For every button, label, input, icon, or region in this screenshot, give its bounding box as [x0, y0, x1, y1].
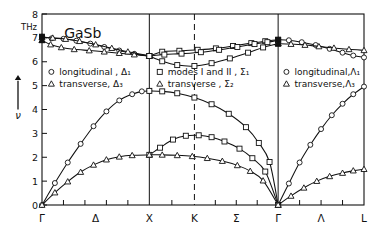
x-tick-label-branch: Λ	[317, 212, 325, 224]
x-tick-label-point: K	[191, 212, 199, 224]
data-point-circle-open	[117, 98, 122, 103]
legend-label: transverse,Λ₃	[294, 79, 355, 89]
data-point-square-open	[160, 89, 165, 94]
data-point-square-open	[246, 50, 251, 55]
x-tick-label-branch: Σ	[233, 212, 240, 224]
data-point-circle-open	[91, 124, 96, 129]
legend-label: longitudinal,Λ₁	[294, 67, 360, 77]
legend-label: modes I and II , Σ₁	[168, 67, 250, 77]
data-point-square-open	[158, 145, 163, 150]
series-line	[278, 169, 364, 205]
x-tick-label-point: Γ	[39, 212, 45, 224]
series-acoustic	[147, 88, 281, 207]
x-tick-label-point: X	[146, 212, 153, 224]
data-point-square-open	[196, 133, 201, 138]
data-point-square-open	[222, 139, 227, 144]
data-point-square-open	[162, 52, 167, 57]
series-acoustic	[146, 152, 281, 207]
data-point-circle-open	[130, 92, 135, 97]
data-point-square-open	[209, 61, 214, 66]
data-point-circle-open	[286, 181, 291, 186]
legend-marker-circle-open	[49, 69, 54, 74]
phonon-dispersion-figure: 012345678THzνΓΔXKΣΓΛLGaSblongitudinal , …	[0, 0, 372, 241]
x-tick-label-point: Γ	[275, 212, 281, 224]
data-point-circle-open	[308, 142, 313, 147]
legend-marker-triangle-open	[48, 81, 54, 86]
data-point-circle-open	[65, 160, 70, 165]
data-point-square-open	[183, 133, 188, 138]
legend-marker-triangle-open	[157, 81, 163, 86]
y-tick-label: 1	[32, 176, 38, 187]
y-unit-label: THz	[20, 22, 38, 32]
data-point-square-open	[209, 135, 214, 140]
y-tick-label: 3	[32, 128, 38, 139]
chart-title: GaSb	[64, 25, 101, 41]
series-line	[42, 91, 149, 205]
data-point-circle-open	[297, 160, 302, 165]
y-tick-label: 8	[32, 9, 38, 20]
data-point-square-open	[227, 56, 232, 61]
legend-label: transverse , Σ₂	[168, 79, 234, 89]
series-acoustic	[39, 152, 152, 207]
legend-marker-square-open	[157, 69, 162, 74]
chart-canvas: 012345678THzνΓΔXKΣΓΛLGaSblongitudinal , …	[0, 0, 372, 241]
data-point-circle-open	[340, 101, 345, 106]
legend-entry: longitudinal , Δ₁	[49, 67, 131, 77]
series-line	[278, 87, 364, 205]
data-point-circle-open	[362, 84, 367, 89]
y-tick-label: 7	[32, 32, 38, 43]
data-point-triangle-open	[247, 168, 253, 173]
data-point-square-open	[175, 91, 180, 96]
data-point-square-open	[170, 137, 175, 142]
data-point-circle-open	[52, 181, 57, 186]
data-point-triangle-open	[288, 193, 294, 198]
y-tick-label: 5	[32, 80, 38, 91]
data-point-circle-open	[319, 127, 324, 132]
data-point-circle-open	[78, 141, 83, 146]
data-point-square-open	[261, 45, 266, 50]
data-point-square-open	[252, 42, 257, 47]
y-tick-label: 0	[32, 200, 38, 211]
data-point-square-open	[198, 50, 203, 55]
legend-entry: longitudinal,Λ₁	[284, 67, 361, 77]
legend-label: longitudinal , Δ₁	[59, 67, 131, 77]
legend-entry: transverse, Δ₃	[48, 79, 123, 89]
data-point-circle-open	[139, 89, 144, 94]
data-point-circle-open	[104, 109, 109, 114]
data-point-square-open	[226, 111, 231, 116]
y-tick-label: 6	[32, 56, 38, 67]
data-point-circle-open	[351, 53, 356, 58]
data-point-circle-open	[351, 92, 356, 97]
legend-entry: modes I and II , Σ₁	[157, 67, 249, 77]
data-point-square-open	[209, 102, 214, 107]
data-point-square-open	[217, 47, 222, 52]
data-point-square-open	[237, 146, 242, 151]
data-point-square-open	[192, 95, 197, 100]
data-point-triangle-open	[78, 169, 84, 174]
legend-entry: transverse , Σ₂	[157, 79, 234, 89]
data-point-square-open	[243, 125, 248, 130]
data-point-square-open	[160, 59, 165, 64]
x-tick-label-point: L	[361, 212, 367, 224]
data-point-triangle-open	[361, 166, 367, 171]
data-point-square-open	[147, 88, 152, 93]
data-point-square-open	[250, 156, 255, 161]
data-point-square-open	[147, 54, 152, 59]
series-line	[42, 155, 149, 205]
data-point-circle-open	[340, 50, 345, 55]
data-point-triangle-open	[301, 185, 307, 190]
data-point-circle-open	[362, 55, 367, 60]
x-tick-label-branch: Δ	[92, 212, 100, 224]
series-line	[149, 155, 278, 205]
data-point-square-open	[267, 160, 272, 165]
data-point-triangle-open	[91, 162, 97, 167]
data-point-square-open	[256, 140, 261, 145]
y-axis-arrow-head	[15, 75, 21, 80]
data-point-circle-open	[329, 113, 334, 118]
data-point-square-open	[179, 51, 184, 56]
y-axis-label: ν	[15, 110, 21, 121]
legend-label: transverse, Δ₃	[59, 79, 123, 89]
legend-marker-triangle-open	[283, 81, 289, 86]
data-point-square-open	[263, 169, 268, 174]
series-acoustic	[276, 84, 367, 207]
